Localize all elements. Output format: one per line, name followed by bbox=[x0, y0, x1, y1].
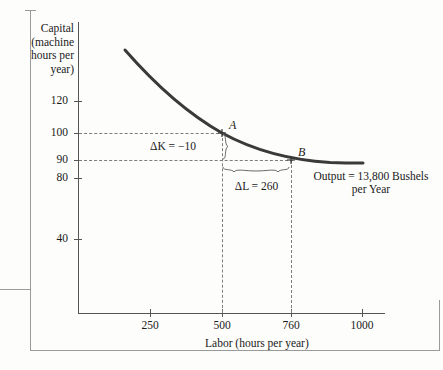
y-tick-label-80: 80 bbox=[28, 171, 68, 183]
x-axis-line bbox=[78, 313, 385, 314]
y-tick-mark-40 bbox=[74, 239, 82, 240]
guide-line-labor-500 bbox=[222, 133, 223, 313]
y-tick-label-40: 40 bbox=[28, 232, 68, 244]
x-tick-label-500: 500 bbox=[197, 319, 247, 331]
y-tick-label-90: 90 bbox=[28, 153, 68, 165]
y-axis-title-line-1: Capital bbox=[0, 22, 74, 36]
output-caption-line-1: Output = 13,800 Bushels bbox=[305, 170, 437, 183]
x-tick-mark-250 bbox=[150, 309, 151, 317]
y-tick-label-120: 120 bbox=[28, 94, 68, 106]
x-tick-label-1000: 1000 bbox=[337, 319, 387, 331]
page-frame-right-rule bbox=[439, 300, 440, 350]
x-tick-mark-1000 bbox=[362, 309, 363, 317]
y-tick-mark-120 bbox=[74, 101, 82, 102]
x-axis-title: Labor (hours per year) bbox=[205, 337, 309, 349]
y-axis-title-line-2: (machine bbox=[0, 36, 74, 50]
delta-l-label: ΔL = 260 bbox=[222, 180, 291, 192]
point-label-b: B bbox=[298, 145, 305, 160]
y-axis-line bbox=[78, 22, 79, 314]
delta-k-label: ΔK = −10 bbox=[150, 140, 196, 152]
y-tick-mark-80 bbox=[74, 178, 82, 179]
figure-page: Capital (machine hours per year) 120 100… bbox=[0, 0, 443, 370]
guide-line-capital-90 bbox=[79, 160, 293, 161]
point-label-a: A bbox=[229, 118, 236, 133]
output-caption: Output = 13,800 Bushels per Year bbox=[305, 170, 437, 196]
y-axis-title-line-4: year) bbox=[0, 63, 74, 77]
y-axis-title: Capital (machine hours per year) bbox=[0, 22, 74, 76]
x-tick-label-250: 250 bbox=[125, 319, 175, 331]
guide-line-labor-760 bbox=[291, 160, 292, 313]
page-frame-bottom-rule bbox=[30, 350, 440, 351]
x-tick-label-760: 760 bbox=[266, 319, 316, 331]
guide-line-capital-100 bbox=[79, 133, 224, 134]
y-axis-title-line-3: hours per bbox=[0, 49, 74, 63]
page-frame-margin-rule bbox=[0, 289, 31, 290]
y-tick-label-100: 100 bbox=[28, 126, 68, 138]
delta-k-brace bbox=[223, 134, 228, 159]
output-caption-line-2: per Year bbox=[305, 183, 437, 196]
delta-l-brace bbox=[223, 167, 289, 172]
